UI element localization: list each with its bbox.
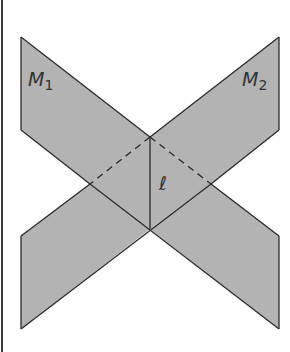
intersecting-planes-diagram: M1 M2 ℓ xyxy=(0,0,290,352)
label-line-ell: ℓ xyxy=(158,172,167,194)
